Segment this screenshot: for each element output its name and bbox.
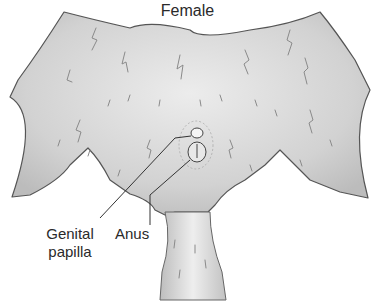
tail [160,212,226,300]
label-anus: Anus [115,225,149,243]
diagram-title: Female [0,2,375,20]
label-genital-papilla-line1: Genital [40,225,100,243]
diagram-figure: Female Genital papilla Anus [0,0,375,307]
genital-papilla-shape [191,128,203,138]
body-outline [10,12,370,215]
label-genital-papilla: Genital papilla [40,225,100,261]
label-genital-papilla-line2: papilla [40,243,100,261]
